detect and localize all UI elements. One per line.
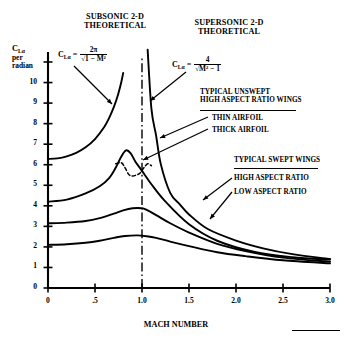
unswept-wings-label: TYPICAL UNSWEPT HIGH ASPECT RATIO WINGS xyxy=(200,88,302,104)
y-tick-label: 6 xyxy=(20,160,37,169)
x-tick-label: 1.5 xyxy=(177,297,201,306)
thin-airfoil-label: THIN AIRFOIL xyxy=(212,114,263,122)
curve-thick-airfoil xyxy=(116,162,152,176)
x-tick-label: 3.0 xyxy=(318,297,342,306)
y-tick-label: 5 xyxy=(20,180,37,189)
low-aspect-ratio-label: LOW ASPECT RATIO xyxy=(234,188,307,196)
x-tick-label: 0 xyxy=(36,297,60,306)
subsonic-formula: CLα = 2π√1 − M² xyxy=(58,46,108,64)
x-tick-label: 2.5 xyxy=(271,297,295,306)
y-tick-label: 0 xyxy=(20,283,37,292)
leader-line-2 xyxy=(160,117,208,138)
y-tick-label: 10 xyxy=(20,78,37,87)
curve-low-aspect-ratio xyxy=(48,235,330,263)
high-aspect-ratio-label: HIGH ASPECT RATIO xyxy=(234,174,309,182)
curve-thin-airfoil xyxy=(48,150,330,259)
unswept-underline xyxy=(200,110,296,111)
x-tick-label: .5 xyxy=(83,297,107,306)
footer-rule xyxy=(292,330,340,331)
x-tick-label: 1.0 xyxy=(130,297,154,306)
x-axis-title: MACH NUMBER xyxy=(0,320,352,329)
chart-plot-svg xyxy=(0,0,352,342)
y-tick-label: 2 xyxy=(20,242,37,251)
leader-line-3 xyxy=(143,129,208,160)
x-tick-label: 2.0 xyxy=(224,297,248,306)
y-tick-label: 8 xyxy=(20,119,37,128)
y-tick-label: 7 xyxy=(20,139,37,148)
leader-line-0 xyxy=(74,66,112,104)
swept-underline xyxy=(234,168,318,169)
curve-subsonic-2-d-theoretical xyxy=(48,73,123,159)
y-tick-label: 1 xyxy=(20,262,37,271)
supersonic-formula: CLα = 4√M² − 1 xyxy=(172,56,222,74)
swept-wings-label: TYPICAL SWEPT WINGS xyxy=(234,156,320,164)
y-tick-label: 4 xyxy=(20,201,37,210)
leader-line-5 xyxy=(210,192,232,219)
chart-figure: SUBSONIC 2-D THEORETICAL SUPERSONIC 2-D … xyxy=(0,0,352,342)
y-tick-label: 9 xyxy=(20,98,37,107)
supersonic-heading: SUPERSONIC 2-D THEORETICAL xyxy=(166,18,292,36)
y-tick-label: 3 xyxy=(20,221,37,230)
subsonic-heading: SUBSONIC 2-D THEORETICAL xyxy=(52,12,178,30)
y-axis-label: CLα per radian xyxy=(12,44,46,70)
thick-airfoil-label: THICK AIRFOIL xyxy=(212,126,269,134)
leader-line-1 xyxy=(150,72,186,101)
